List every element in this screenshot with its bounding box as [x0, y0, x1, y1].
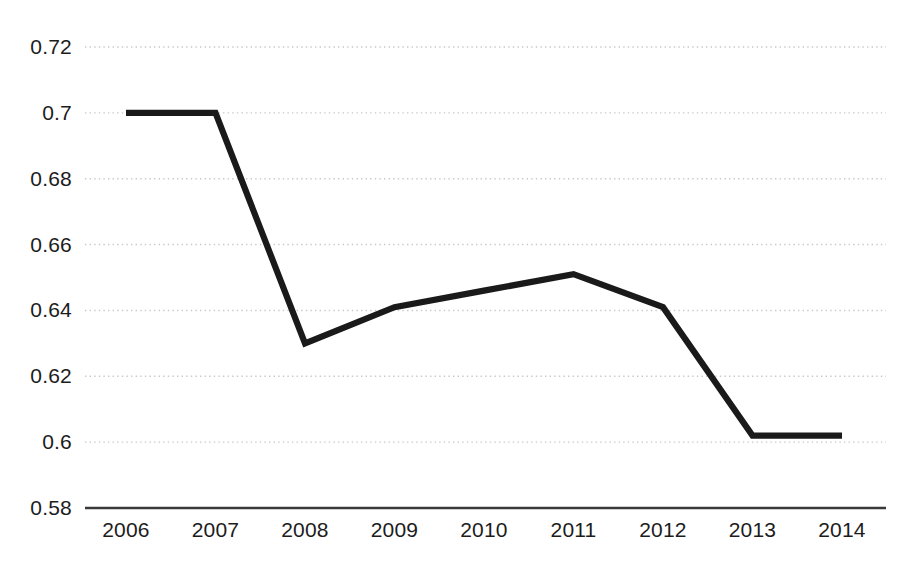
- x-axis-tick-label: 2008: [281, 518, 329, 542]
- y-axis-tick-label: 0.66: [0, 233, 72, 257]
- x-axis-tick-label: 2013: [729, 518, 777, 542]
- chart-plot-area: [0, 0, 910, 569]
- y-axis-tick-label: 0.62: [0, 364, 72, 388]
- y-axis-tick-label: 0.68: [0, 167, 72, 191]
- x-axis-tick-label: 2006: [102, 518, 150, 542]
- y-axis-tick-label: 0.72: [0, 35, 72, 59]
- x-axis-tick-label: 2012: [639, 518, 687, 542]
- x-axis-tick-label: 2009: [371, 518, 419, 542]
- gridlines: [85, 47, 886, 442]
- x-axis-tick-label: 2010: [460, 518, 508, 542]
- y-axis-tick-label: 0.64: [0, 298, 72, 322]
- x-axis-tick-label: 2007: [192, 518, 240, 542]
- y-axis-tick-label: 0.58: [0, 496, 72, 520]
- line-chart: 0.720.70.680.660.640.620.60.58 200620072…: [0, 0, 910, 569]
- x-axis-tick-label: 2011: [551, 518, 597, 542]
- x-axis-tick-label: 2014: [818, 518, 866, 542]
- y-axis-tick-label: 0.6: [0, 430, 72, 454]
- y-axis-tick-label: 0.7: [0, 101, 72, 125]
- series-line: [126, 113, 842, 436]
- data-series-line: [126, 113, 842, 436]
